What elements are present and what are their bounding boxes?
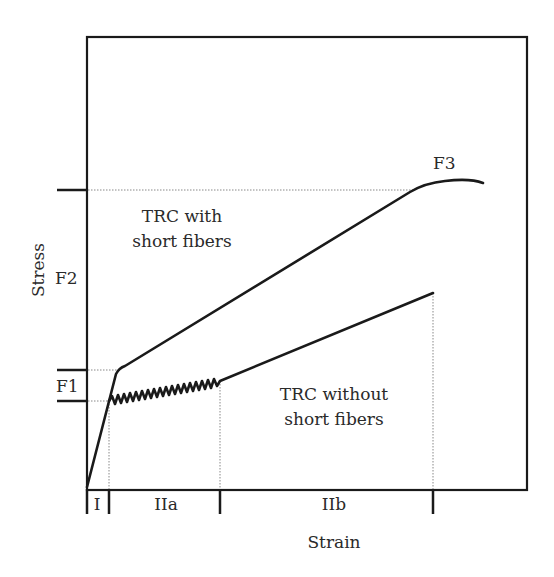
- stress-ticks: [57, 190, 88, 401]
- region-i-label: I: [94, 494, 101, 514]
- with-fibers-label-line1: TRC with: [142, 206, 222, 226]
- x-axis-label: Strain: [307, 532, 360, 552]
- region-iib-label: IIb: [322, 494, 346, 514]
- strain-ticks: [87, 489, 433, 514]
- label-f1: F1: [56, 376, 79, 396]
- without-fibers-label-line2: short fibers: [284, 409, 383, 429]
- with-fibers-label-line2: short fibers: [132, 231, 231, 251]
- region-iia-label: IIa: [154, 494, 178, 514]
- label-f2: F2: [55, 268, 78, 288]
- without-fibers-label-line1: TRC without: [280, 384, 389, 404]
- label-f3: F3: [433, 153, 456, 173]
- y-axis-label: Stress: [28, 243, 48, 297]
- stress-strain-diagram: F2 F1 F3 Stress Strain I IIa IIb TRC wit…: [0, 0, 554, 577]
